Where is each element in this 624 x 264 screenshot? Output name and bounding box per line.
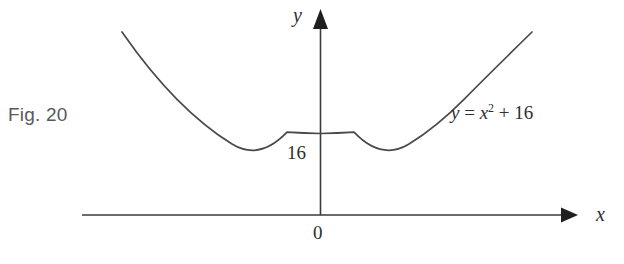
y-axis-label: y	[293, 5, 302, 25]
figure-caption: Fig. 20	[8, 105, 68, 124]
graph-svg	[0, 0, 624, 264]
y-axis-arrowhead	[313, 9, 328, 29]
x-axis-arrowhead	[561, 208, 578, 223]
curve-equation-label: y = x2 + 16	[451, 103, 533, 122]
equation-variable: x	[480, 102, 488, 123]
equation-equals: =	[459, 102, 479, 123]
figure-canvas: Fig. 20 y x 16 0 y = x2 + 16	[0, 0, 624, 264]
parabola-curve	[122, 32, 532, 150]
x-axis-label: x	[596, 204, 605, 224]
equation-tail: + 16	[494, 102, 533, 123]
y-intercept-value-label: 16	[287, 143, 306, 162]
origin-label: 0	[313, 223, 323, 242]
